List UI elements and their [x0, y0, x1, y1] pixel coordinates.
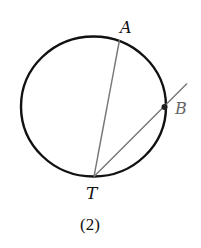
label-B: B: [174, 99, 187, 118]
caption: (2): [80, 215, 100, 234]
label-T: T: [86, 183, 99, 203]
point-B-dot: [162, 104, 168, 110]
circle: [21, 37, 166, 177]
label-A: A: [118, 18, 132, 37]
circle-diagram: A B T (2): [0, 0, 201, 248]
chord-TA: [94, 40, 120, 177]
secant-TB: [94, 84, 187, 177]
